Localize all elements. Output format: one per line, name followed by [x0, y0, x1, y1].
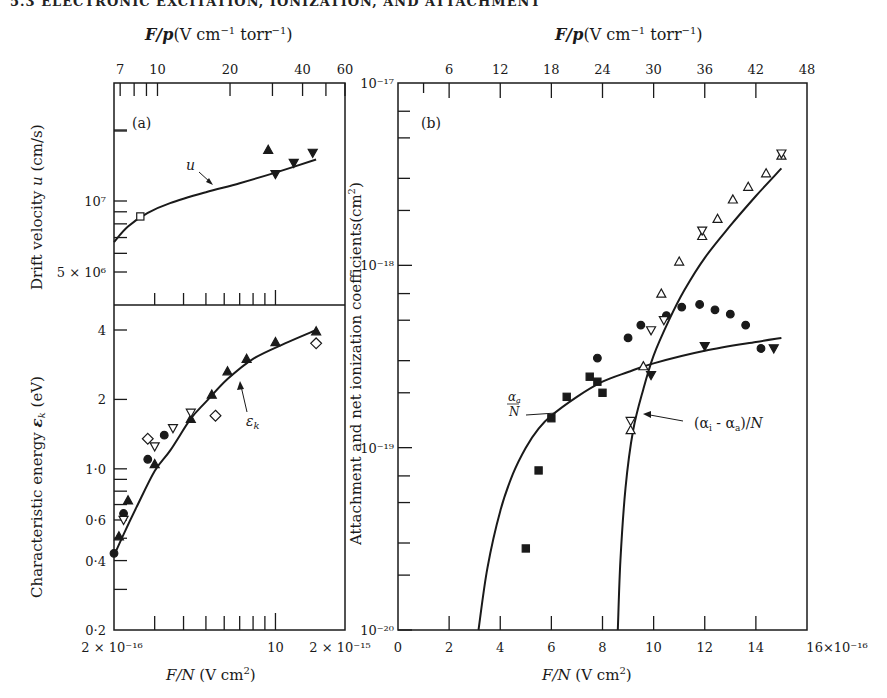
square-marker-icon: [594, 378, 601, 385]
x-tick-label: 14: [748, 640, 765, 655]
circle-marker-icon: [696, 301, 704, 309]
triangle-down-marker-icon: [168, 425, 177, 433]
circle-marker-icon: [160, 431, 168, 439]
triangle-up-marker-icon: [124, 496, 133, 504]
characteristic-energy-curve: [114, 330, 316, 556]
y-tick-label: 10⁻¹⁹: [360, 441, 394, 456]
curve-label-ek: εk: [246, 413, 260, 431]
square-marker-icon: [535, 467, 542, 474]
triangle-up-marker-icon: [264, 145, 273, 153]
attachment-curve: [479, 338, 782, 630]
triangle-up-marker-icon: [744, 182, 753, 190]
triangle-up-marker-icon: [242, 354, 251, 362]
top-axis-title-left: F/p(V cm−1 torr−1): [144, 25, 293, 44]
arrow-head-icon: [237, 381, 244, 390]
annotation-alpha-a-num: αa: [508, 390, 521, 405]
y-tick-label: 1·0: [85, 462, 106, 477]
triangle-up-marker-icon: [762, 169, 771, 177]
y-tick-label: 0·6: [85, 513, 106, 528]
top-tick-label: 42: [748, 62, 765, 77]
top-tick-label: 18: [543, 62, 560, 77]
y-tick-label: 0·2: [85, 623, 106, 638]
triangle-up-marker-icon: [223, 367, 232, 375]
y-tick-label: 10⁷: [84, 194, 106, 209]
top-tick-label: 30: [645, 62, 662, 77]
triangle-up-marker-icon: [713, 214, 722, 222]
annotation-net-leader: [650, 415, 683, 421]
circle-marker-icon: [742, 321, 750, 329]
top-tick-label: 10: [149, 62, 166, 77]
x-tick-label: 2 × 10⁻¹⁶: [81, 640, 142, 655]
ylabel-attachment-coefficients: Attachment and net ionization coefficien…: [346, 182, 365, 546]
y-tick-label: 10⁻¹⁷: [360, 76, 394, 91]
top-tick-label: 48: [799, 62, 816, 77]
triangle-down-marker-icon: [769, 345, 778, 353]
curve-label-u: u: [186, 157, 195, 173]
x-tick-label: 2 × 10⁻¹⁵: [309, 640, 370, 655]
square-marker-icon: [522, 545, 529, 552]
figure: F/p(V cm−1 torr−1) F/p(V cm−1 torr−1) 71…: [0, 0, 887, 698]
diamond-marker-icon: [311, 338, 322, 349]
triangle-down-marker-icon: [150, 443, 159, 451]
triangle-up-marker-icon: [271, 337, 280, 345]
triangle-down-marker-icon: [647, 327, 656, 335]
x-tick-label: 2: [445, 640, 453, 655]
circle-marker-icon: [594, 354, 602, 362]
circle-marker-icon: [711, 306, 719, 314]
triangle-up-marker-icon: [728, 195, 737, 203]
diamond-marker-icon: [210, 410, 221, 421]
circle-marker-icon: [726, 310, 734, 318]
top-axis-title-right: F/p(V cm−1 torr−1): [554, 25, 703, 44]
x-tick-label: 8: [598, 640, 606, 655]
top-tick-label: 24: [594, 62, 611, 77]
x-tick-label: 6: [547, 640, 555, 655]
xlabel-right: F/N (V cm2): [541, 665, 632, 684]
circle-marker-icon: [678, 303, 686, 311]
x-tick-label: 10: [645, 640, 662, 655]
y-tick-label: 10⁻¹⁸: [360, 258, 394, 273]
y-tick-label: 10⁻²⁰: [360, 623, 394, 638]
panel-a: [114, 83, 345, 630]
circle-marker-icon: [110, 550, 118, 558]
square-marker-icon: [563, 393, 570, 400]
square-marker-icon: [548, 415, 555, 422]
arrow-head-icon: [643, 411, 651, 418]
ylabel-characteristic-energy: Characteristic energy εk (eV): [28, 376, 47, 598]
circle-marker-icon: [624, 334, 632, 342]
triangle-up-marker-icon: [675, 257, 684, 265]
xlabel-left: F/N (V cm2): [165, 665, 256, 684]
ylabel-drift-velocity: Drift velocity u (cm/s): [28, 124, 46, 290]
curve-ek-arrow: [241, 386, 247, 412]
square-marker-icon: [586, 373, 593, 380]
x-tick-label: 4: [496, 640, 504, 655]
top-tick-label: 7: [116, 62, 124, 77]
triangle-up-marker-icon: [657, 289, 666, 297]
panel-a-label: (a): [132, 115, 151, 131]
circle-marker-icon: [757, 345, 765, 353]
circle-marker-icon: [144, 455, 152, 463]
panel-b: [398, 83, 807, 630]
triangle-down-marker-icon: [308, 149, 317, 157]
panel-a-ticks: 71020406010⁷5 × 10⁶0·20·40·61·0242 × 10⁻…: [57, 62, 371, 655]
circle-marker-icon: [637, 321, 645, 329]
y-tick-label: 5 × 10⁶: [57, 265, 106, 280]
top-tick-label: 60: [337, 62, 354, 77]
triangle-down-marker-icon: [698, 227, 707, 235]
x-tick-label: 12: [696, 640, 713, 655]
x-tick-label: 10: [267, 640, 284, 655]
top-tick-label: 20: [222, 62, 239, 77]
top-tick-label: 40: [294, 62, 311, 77]
y-tick-label: 2: [98, 392, 106, 407]
top-tick-label: 12: [492, 62, 509, 77]
drift-velocity-curve: [114, 160, 316, 243]
panel-a-content: [110, 145, 321, 557]
panel-b-ticks: 6121824303642480246810121416×10⁻¹⁶10⁻²⁰1…: [360, 62, 867, 655]
square-marker-icon: [599, 389, 606, 396]
y-tick-label: 4: [98, 323, 106, 338]
top-tick-label: 36: [696, 62, 713, 77]
square-marker-icon: [137, 213, 144, 220]
x-tick-label: 0: [394, 640, 402, 655]
annotation-alpha-a-den: N: [508, 405, 520, 419]
panel-b-label: (b): [421, 115, 441, 131]
top-tick-label: 6: [445, 62, 453, 77]
